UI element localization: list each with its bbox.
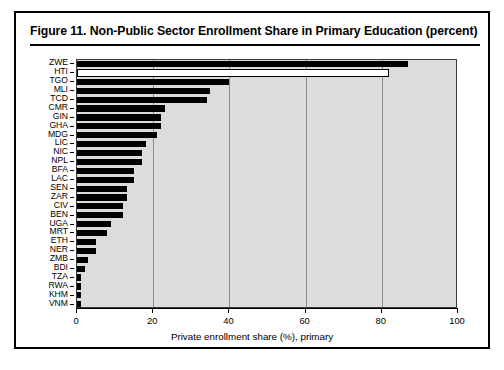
bars-layer (77, 60, 456, 307)
bar-nic (77, 150, 142, 156)
y-axis-tick-gin (70, 117, 74, 118)
bar-lic (77, 141, 146, 147)
bar-sen (77, 186, 127, 192)
x-axis-tick-100 (457, 308, 458, 313)
bar-row (77, 273, 458, 282)
bar-gha (77, 123, 161, 129)
bar-row (77, 60, 458, 69)
y-axis-tick-sen (70, 188, 74, 189)
bar-row (77, 256, 458, 265)
bar-mrt (77, 230, 107, 236)
title-underline-rule (30, 44, 480, 46)
bar-zar (77, 194, 127, 200)
bar-row (77, 87, 458, 96)
bar-row (77, 131, 458, 140)
x-axis-title: Private enrollment share (%), primary (16, 331, 488, 342)
bar-zwe (77, 61, 408, 67)
bar-row (77, 282, 458, 291)
bar-gin (77, 114, 161, 120)
y-axis-tick-civ (70, 206, 74, 207)
y-axis-tick-uga (70, 224, 74, 225)
figure-title: Figure 11. Non-Public Sector Enrollment … (30, 24, 480, 38)
bar-bdi (77, 266, 85, 272)
bar-row (77, 291, 458, 300)
bar-lac (77, 177, 134, 183)
x-axis-ticklabel-60: 60 (299, 315, 309, 326)
y-axis-tick-zwe (70, 63, 74, 64)
bar-cmr (77, 105, 165, 111)
bar-hti (77, 69, 389, 76)
x-axis-ticklabel-100: 100 (449, 315, 465, 326)
y-axis-tick-npl (70, 161, 74, 162)
bar-mli (77, 88, 210, 94)
bar-row (77, 122, 458, 131)
bar-npl (77, 159, 142, 165)
bar-row (77, 140, 458, 149)
bar-row (77, 96, 458, 105)
y-axis-labels: ZWEHTITGOMLITCDCMRGINGHAMDGLICNICNPLBFAL… (16, 59, 74, 308)
bar-row (77, 229, 458, 238)
bar-row (77, 238, 458, 247)
bar-eth (77, 239, 96, 245)
bar-tza (77, 274, 81, 280)
y-axis-tick-nic (70, 152, 74, 153)
y-axis-tick-mli (70, 90, 74, 91)
bar-vnm (77, 301, 81, 307)
bar-row (77, 202, 458, 211)
plot-area (76, 59, 457, 308)
y-axis-tick-ner (70, 250, 74, 251)
bar-ben (77, 212, 123, 218)
bar-row (77, 69, 458, 78)
bar-tgo (77, 79, 229, 85)
y-axis-tick-gha (70, 126, 74, 127)
bar-zmb (77, 257, 88, 263)
bar-row (77, 113, 458, 122)
y-axis-tick-zmb (70, 259, 74, 260)
bar-ner (77, 248, 96, 254)
bar-row (77, 158, 458, 167)
bar-row (77, 193, 458, 202)
bar-row (77, 176, 458, 185)
bar-row (77, 167, 458, 176)
bar-row (77, 185, 458, 194)
bar-civ (77, 203, 123, 209)
y-axis-tick-mdg (70, 135, 74, 136)
x-axis-tick-60 (305, 308, 306, 313)
y-axis-tick-ben (70, 215, 74, 216)
bar-rwa (77, 283, 81, 289)
x-axis-ticklabel-0: 0 (73, 315, 78, 326)
y-axis-tick-lac (70, 179, 74, 180)
bar-mdg (77, 132, 157, 138)
y-axis-tick-bdi (70, 268, 74, 269)
y-axis-tick-rwa (70, 286, 74, 287)
bar-row (77, 247, 458, 256)
bar-bfa (77, 168, 134, 174)
y-axis-tick-zar (70, 197, 74, 198)
x-axis-tick-20 (152, 308, 153, 313)
y-axis-tick-tgo (70, 81, 74, 82)
bar-row (77, 104, 458, 113)
x-axis-ticklabel-20: 20 (147, 315, 157, 326)
y-axis-tick-hti (70, 72, 74, 73)
x-axis-ticklabel-40: 40 (223, 315, 233, 326)
y-axis-tick-mrt (70, 232, 74, 233)
y-axis-tick-tza (70, 277, 74, 278)
y-axis-tick-eth (70, 241, 74, 242)
bar-row (77, 220, 458, 229)
bar-row (77, 78, 458, 87)
bar-khm (77, 292, 81, 298)
bar-uga (77, 221, 111, 227)
x-axis-tick-40 (228, 308, 229, 313)
figure-frame: Figure 11. Non-Public Sector Enrollment … (14, 11, 490, 349)
y-axis-tick-khm (70, 295, 74, 296)
x-axis-ticklabel-80: 80 (376, 315, 386, 326)
y-axis-label-vnm: VNM (49, 299, 68, 308)
y-axis-tick-bfa (70, 170, 74, 171)
x-axis-line (76, 308, 457, 309)
bar-tcd (77, 97, 207, 103)
y-axis-tick-cmr (70, 108, 74, 109)
y-axis-tick-vnm (70, 304, 74, 305)
y-axis-tick-tcd (70, 99, 74, 100)
x-axis-tick-80 (381, 308, 382, 313)
bar-row (77, 265, 458, 274)
